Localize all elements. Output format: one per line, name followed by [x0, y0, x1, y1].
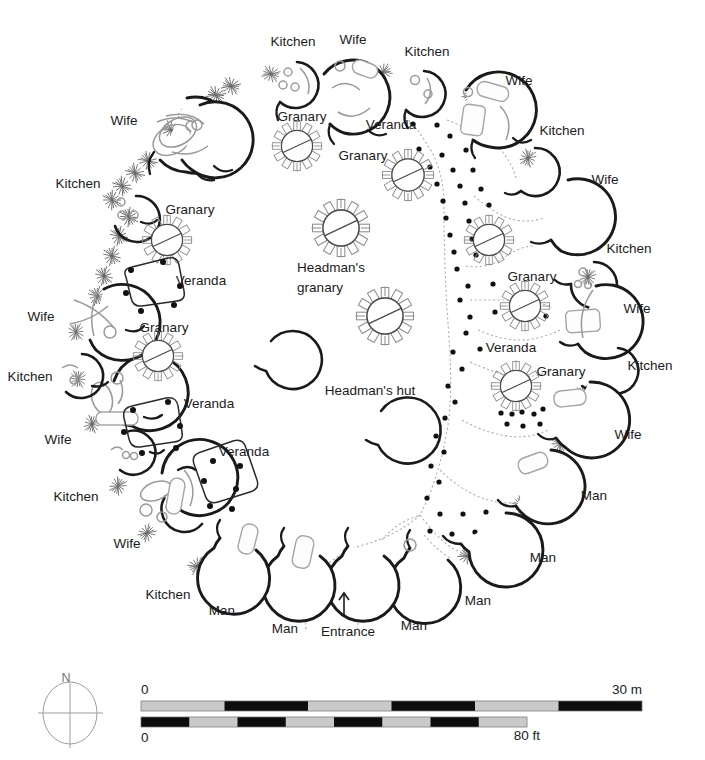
- plan-label-veranda: Veranda: [176, 273, 227, 288]
- hut-kitchen: [62, 354, 108, 398]
- plan-label-kitchen: Kitchen: [145, 587, 190, 602]
- plan-label-man: Man: [401, 618, 427, 633]
- plan-label-granary: Granary: [537, 364, 586, 379]
- plan-label-kitchen: Kitchen: [53, 489, 98, 504]
- unlabeled-central-hut: [255, 331, 322, 389]
- granary-icon: [491, 361, 542, 412]
- plan-label-veranda: Veranda: [366, 117, 417, 132]
- metric-end-label: 30 m: [612, 682, 642, 697]
- granary-icon: [382, 149, 435, 202]
- plan-label-man: Man: [209, 603, 235, 618]
- imperial-start-label: 0: [141, 730, 149, 745]
- plan-label-kitchen: Kitchen: [539, 123, 584, 138]
- scale-bar-imperial: 0 80 ft: [141, 717, 540, 745]
- hut-man: [327, 528, 399, 621]
- hut-wife: [88, 355, 188, 431]
- headmans-hut: [366, 397, 441, 463]
- hut-man: [198, 520, 270, 614]
- plan-label-man: Man: [581, 488, 607, 503]
- plan-label-granary: granary: [297, 280, 343, 295]
- plan-label-headman-s-hut: Headman's hut: [325, 383, 416, 398]
- plan-label-veranda: Veranda: [486, 340, 537, 355]
- hut-wife: [538, 382, 630, 458]
- plan-label-kitchen: Kitchen: [55, 176, 100, 191]
- plan-label-man: Man: [272, 621, 298, 636]
- plan-label-entrance: Entrance: [321, 624, 375, 639]
- plan-label-veranda: Veranda: [219, 444, 270, 459]
- hut-wife: [531, 179, 616, 255]
- hut-man: [389, 530, 461, 623]
- hut-man: [263, 528, 335, 621]
- plan-label-granary: Granary: [278, 109, 327, 124]
- plan-label-granary: Granary: [508, 269, 557, 284]
- hut-group-left: [62, 102, 253, 522]
- plan-label-man: Man: [465, 593, 491, 608]
- metric-start-label: 0: [141, 682, 149, 697]
- plan-label-wife: Wife: [615, 427, 642, 442]
- compass-north-label: N: [61, 671, 70, 685]
- site-plan-figure: KitchenWifeKitchenWifeKitchenWifeKitchen…: [0, 0, 705, 760]
- plan-label-headman-s: Headman's: [297, 260, 365, 275]
- headmans-granary-icon: [312, 199, 371, 258]
- plan-label-kitchen: Kitchen: [7, 369, 52, 384]
- plan-label-wife: Wife: [28, 309, 55, 324]
- granary-icon: [500, 281, 551, 332]
- plan-label-wife: Wife: [114, 536, 141, 551]
- granary-icon: [272, 121, 323, 172]
- plan-canvas: KitchenWifeKitchenWifeKitchenWifeKitchen…: [0, 0, 705, 760]
- plan-label-granary: Granary: [140, 320, 189, 335]
- plan-label-wife: Wife: [624, 301, 651, 316]
- headmans-granary-icon: [356, 287, 415, 346]
- plan-label-kitchen: Kitchen: [404, 44, 449, 59]
- plan-label-wife: Wife: [45, 432, 72, 447]
- plan-label-kitchen: Kitchen: [627, 358, 672, 373]
- plan-label-granary: Granary: [339, 148, 388, 163]
- hut-kitchen: [111, 431, 164, 475]
- plan-label-wife: Wife: [592, 172, 619, 187]
- imperial-end-label: 80 ft: [514, 728, 541, 743]
- plan-label-wife: Wife: [340, 32, 367, 47]
- plan-label-granary: Granary: [166, 202, 215, 217]
- scale-bar-metric: 0 30 m: [141, 682, 642, 711]
- plan-label-wife: Wife: [506, 73, 533, 88]
- plan-label-man: Man: [530, 550, 556, 565]
- plan-label-kitchen: Kitchen: [270, 34, 315, 49]
- plan-label-wife: Wife: [111, 113, 138, 128]
- scale-bars: 0 30 m 0 80 ft: [141, 682, 642, 745]
- compass-rose: N: [38, 671, 103, 748]
- plan-label-kitchen: Kitchen: [606, 241, 651, 256]
- plan-label-veranda: Veranda: [184, 396, 235, 411]
